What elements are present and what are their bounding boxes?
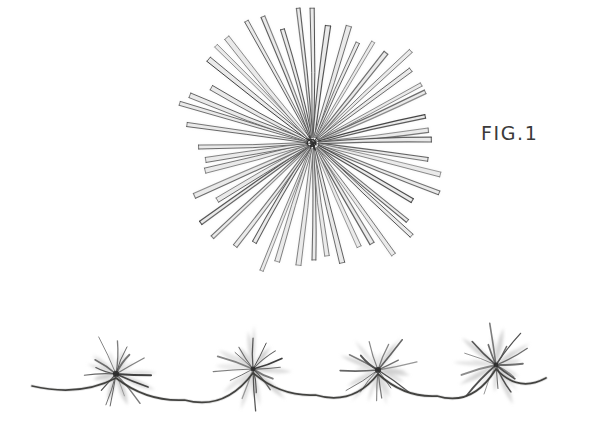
fig1-caption: FIG.1 bbox=[481, 122, 538, 144]
drawing-sheet: FIG.1 bbox=[0, 0, 595, 434]
illustration-canvas bbox=[0, 0, 595, 434]
